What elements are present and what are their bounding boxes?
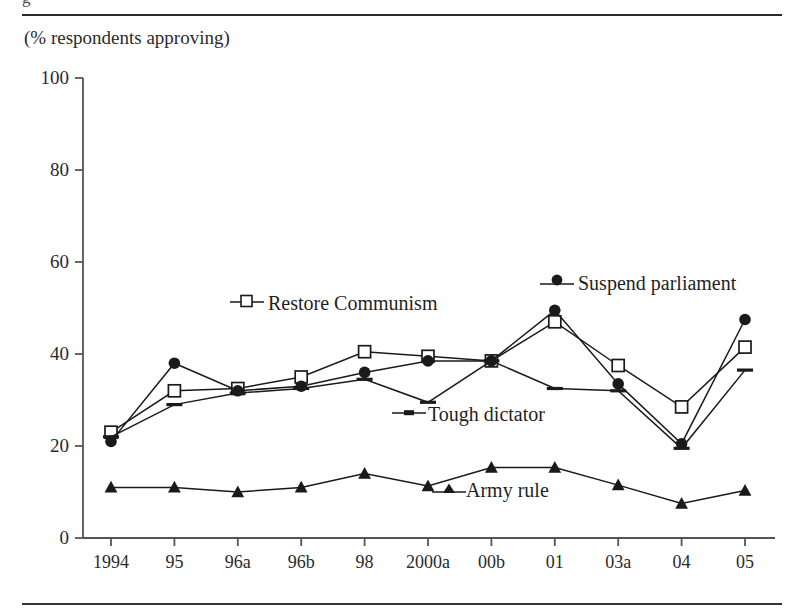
legend-marker-suspend-parliament — [540, 273, 574, 291]
data-point-marker — [739, 314, 751, 326]
data-point-marker — [422, 355, 434, 367]
data-point-marker — [231, 485, 244, 497]
data-point-marker — [610, 389, 626, 392]
data-point-marker — [486, 355, 498, 367]
legend-marker-restore-communism — [230, 293, 264, 311]
data-point-marker — [169, 357, 181, 369]
data-point-marker — [359, 346, 371, 358]
series-army-rule — [105, 461, 752, 509]
y-tick-label: 80 — [25, 159, 69, 181]
data-point-marker — [293, 387, 309, 390]
x-tick-label: 1994 — [93, 552, 129, 573]
data-point-marker — [166, 403, 182, 406]
data-point-marker — [548, 461, 561, 473]
data-point-marker — [676, 401, 688, 413]
x-tick-label: 96b — [288, 552, 315, 573]
data-point-marker — [105, 426, 117, 438]
x-tick-label: 00b — [478, 552, 505, 573]
x-tick-label: 96a — [225, 552, 251, 573]
data-point-marker — [485, 355, 497, 367]
data-point-marker — [105, 481, 118, 493]
data-point-marker — [612, 378, 624, 390]
legend-marker-army-rule — [432, 481, 466, 499]
data-point-marker — [358, 467, 371, 479]
legend-marker-tough-dictator — [392, 404, 426, 422]
data-point-marker — [230, 392, 246, 395]
figure-page: g (% respondents approving) 020406080100… — [0, 0, 810, 616]
data-point-marker — [739, 484, 752, 496]
x-tick-label: 04 — [673, 552, 691, 573]
data-point-marker — [737, 369, 753, 372]
top-rule — [22, 14, 782, 16]
axis-caption: (% respondents approving) — [24, 27, 230, 49]
data-point-marker — [105, 436, 117, 448]
data-point-marker — [485, 461, 498, 473]
data-point-marker — [357, 378, 373, 381]
series-label-tough-dictator: Tough dictator — [428, 403, 545, 426]
x-tick-label: 2000a — [406, 552, 450, 573]
y-tick-label: 0 — [25, 527, 69, 549]
data-point-marker — [103, 435, 119, 438]
series-label-suspend-parliament: Suspend parliament — [578, 272, 736, 295]
data-point-marker — [612, 360, 624, 372]
data-point-marker — [549, 305, 561, 317]
y-tick-label: 20 — [25, 435, 69, 457]
data-point-marker — [168, 481, 181, 493]
data-point-marker — [739, 341, 751, 353]
data-point-marker — [359, 367, 371, 379]
series-label-restore-communism: Restore Communism — [268, 292, 437, 315]
data-point-marker — [549, 316, 561, 328]
data-point-marker — [422, 350, 434, 362]
data-point-marker — [232, 385, 244, 397]
clipped-caption-fragment: g — [22, 0, 31, 8]
data-point-marker — [232, 383, 244, 395]
data-point-marker — [547, 387, 563, 390]
series-suspend-parliament — [105, 305, 751, 450]
x-tick-label: 05 — [736, 552, 754, 573]
x-tick-label: 03a — [605, 552, 631, 573]
bottom-rule — [22, 603, 782, 605]
data-point-marker — [168, 385, 180, 397]
y-tick-label: 60 — [25, 251, 69, 273]
series-label-army-rule: Army rule — [466, 479, 549, 502]
data-point-marker — [295, 371, 307, 383]
y-tick-label: 40 — [25, 343, 69, 365]
data-point-marker — [675, 497, 688, 509]
x-tick-label: 98 — [356, 552, 374, 573]
data-point-marker — [483, 359, 499, 362]
data-point-marker — [674, 447, 690, 450]
x-tick-label: 95 — [165, 552, 183, 573]
x-tick-label: 01 — [546, 552, 564, 573]
data-point-marker — [612, 479, 625, 491]
data-point-marker — [676, 438, 688, 450]
y-tick-label: 100 — [25, 67, 69, 89]
data-point-marker — [295, 481, 308, 493]
data-point-marker — [295, 380, 307, 392]
